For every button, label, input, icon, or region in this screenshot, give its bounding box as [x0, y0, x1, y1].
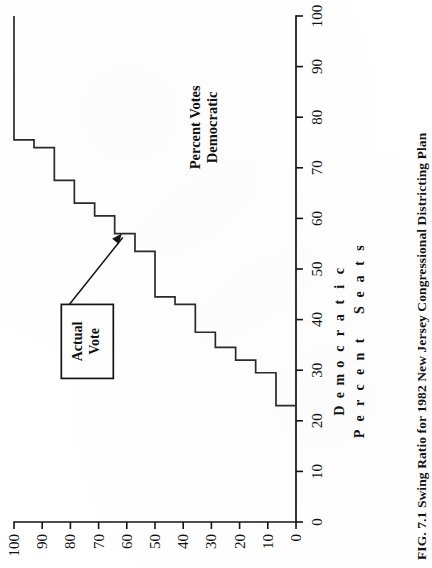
- figure-stage: 0102030405060708090100 01020304050607080…: [0, 0, 432, 568]
- y-tick-label: 70: [91, 534, 107, 549]
- y-axis-ticks: [14, 522, 296, 529]
- y-axis-title: PercentSeatsDemocratic: [332, 245, 367, 439]
- x-tick-label: 80: [309, 110, 325, 125]
- y-axis-title-letter: P: [352, 429, 367, 438]
- y-axis-title-letter: D: [332, 406, 347, 416]
- x-tick-label: 10: [309, 464, 325, 479]
- swing-ratio-step-curve: [14, 16, 296, 406]
- annotation-leader-line: [69, 238, 122, 305]
- annotation-arrowhead: [112, 234, 122, 244]
- x-axis-title-line1: Percent Votes: [187, 85, 203, 169]
- x-tick-label: 90: [309, 59, 325, 74]
- x-axis-title-line2: Democratic: [204, 91, 220, 163]
- y-tick-label: 60: [119, 534, 135, 549]
- annotation-label-line1: Actual: [70, 321, 85, 361]
- y-tick-label: 40: [175, 534, 191, 549]
- y-axis-title-letter: c: [352, 384, 367, 390]
- swing-ratio-chart: 0102030405060708090100 01020304050607080…: [0, 0, 400, 568]
- x-tick-label: 70: [309, 160, 325, 175]
- y-axis-title-letter: e: [352, 291, 367, 297]
- y-axis-title-letter: a: [352, 276, 367, 283]
- y-axis-title-letter: t: [352, 261, 367, 266]
- y-tick-label: 100: [6, 534, 22, 557]
- y-axis-title-letter: i: [332, 285, 347, 289]
- x-tick-label: 40: [309, 312, 325, 327]
- x-tick-label: 30: [309, 363, 325, 378]
- y-axis-title-letter: e: [352, 415, 367, 421]
- x-axis-title: Percent Votes Democratic: [187, 85, 220, 169]
- y-tick-label: 80: [62, 534, 78, 549]
- y-tick-label: 90: [34, 534, 50, 549]
- y-axis-title-letter: e: [352, 369, 367, 375]
- y-tick-label: 20: [232, 534, 248, 549]
- y-axis-title-letter: s: [352, 245, 367, 251]
- y-axis-title-letter: c: [332, 268, 347, 274]
- y-axis-title-letter: r: [352, 400, 367, 406]
- y-axis-title-letter: t: [352, 338, 367, 343]
- x-axis-tick-labels: 0102030405060708090100: [309, 5, 325, 526]
- annotation-label-line2: Vote: [87, 328, 102, 355]
- y-tick-label: 30: [203, 534, 219, 549]
- y-axis-title-letter: S: [352, 306, 367, 314]
- x-tick-label: 100: [309, 5, 325, 28]
- y-axis-title-letter: n: [352, 352, 367, 360]
- actual-vote-annotation: Actual Vote: [61, 234, 122, 379]
- x-axis-ticks: [296, 16, 303, 522]
- x-tick-label: 0: [309, 518, 325, 526]
- y-axis-title-letter: t: [332, 300, 347, 305]
- y-tick-label: 50: [147, 534, 163, 549]
- y-axis-title-letter: c: [332, 346, 347, 352]
- y-tick-label: 0: [288, 534, 304, 542]
- x-tick-label: 20: [309, 413, 325, 428]
- y-axis-title-letter: e: [332, 392, 347, 398]
- y-axis-title-letter: o: [332, 361, 347, 368]
- figure-caption: FIG. 7.1 Swing Ratio for 1982 New Jersey…: [414, 4, 430, 560]
- y-axis-title-letter: a: [332, 314, 347, 321]
- y-axis-tick-labels: 0102030405060708090100: [6, 534, 304, 557]
- y-axis-title-letter: r: [332, 330, 347, 336]
- x-tick-label: 50: [309, 262, 325, 277]
- x-tick-label: 60: [309, 211, 325, 226]
- y-tick-label: 10: [260, 534, 276, 549]
- y-axis-title-letter: m: [332, 374, 347, 386]
